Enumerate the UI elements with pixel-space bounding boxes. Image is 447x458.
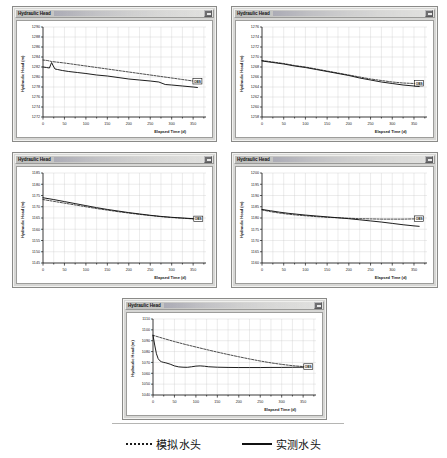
svg-text:1284: 1284 bbox=[32, 55, 40, 59]
hydraulic-head-window-4[interactable]: Hydraulic Head11601165117011751180118511… bbox=[231, 152, 438, 288]
svg-text:0: 0 bbox=[261, 122, 263, 126]
y-axis-ticks: 10401050106010701080109011001110 bbox=[142, 317, 153, 397]
figure-sheet: Hydraulic Head12721274127612781280128212… bbox=[0, 0, 447, 458]
chart-svg: 1145115011551160116511701175118011850501… bbox=[17, 167, 212, 283]
svg-text:1170: 1170 bbox=[251, 239, 259, 243]
window-title: Hydraulic Head bbox=[128, 303, 161, 308]
svg-text:1276: 1276 bbox=[32, 95, 40, 99]
svg-text:1155: 1155 bbox=[32, 239, 40, 243]
svg-text:1278: 1278 bbox=[32, 85, 40, 89]
svg-text:300: 300 bbox=[389, 122, 395, 126]
window-titlebar[interactable]: Hydraulic Head bbox=[15, 9, 214, 18]
svg-text:50: 50 bbox=[282, 122, 286, 126]
svg-text:1160: 1160 bbox=[32, 228, 40, 232]
svg-text:150: 150 bbox=[324, 122, 330, 126]
x-axis-label: Elapsed Time (d) bbox=[375, 129, 408, 134]
series-line-simulated bbox=[153, 335, 308, 366]
series-line-measured bbox=[43, 63, 197, 88]
svg-text:50: 50 bbox=[282, 268, 286, 272]
window-titlebar[interactable]: Hydraulic Head bbox=[234, 9, 435, 18]
svg-text:300: 300 bbox=[279, 400, 285, 404]
x-axis-ticks: 050100150200250300350 bbox=[261, 117, 425, 126]
plot-area: 1160116511701175118011851190119512000501… bbox=[235, 166, 434, 284]
svg-text:100: 100 bbox=[193, 400, 199, 404]
svg-text:0: 0 bbox=[42, 122, 44, 126]
window-titlebar[interactable]: Hydraulic Head bbox=[15, 155, 214, 164]
svg-text:350: 350 bbox=[300, 400, 306, 404]
svg-text:1090: 1090 bbox=[142, 339, 150, 343]
svg-text:1175: 1175 bbox=[251, 228, 259, 232]
svg-text:150: 150 bbox=[104, 122, 110, 126]
svg-text:100: 100 bbox=[83, 268, 89, 272]
hydraulic-head-window-3[interactable]: Hydraulic Head11451150115511601165117011… bbox=[12, 152, 217, 288]
window-titlebar[interactable]: Hydraulic Head bbox=[234, 155, 435, 164]
close-icon[interactable] bbox=[425, 156, 433, 163]
y-axis-label: Hydraulic Head (m) bbox=[130, 340, 135, 377]
svg-text:100: 100 bbox=[302, 122, 308, 126]
plot-area: 1272127412761278128012821284128612881290… bbox=[16, 20, 213, 138]
chart-svg: 1272127412761278128012821284128612881290… bbox=[17, 21, 212, 137]
svg-text:300: 300 bbox=[169, 122, 175, 126]
window-title: Hydraulic Head bbox=[18, 11, 51, 16]
legend-label-measured: 实测水头 bbox=[276, 436, 322, 452]
legend-label-simulated: 模拟水头 bbox=[156, 436, 202, 452]
svg-text:0: 0 bbox=[152, 400, 154, 404]
svg-text:1165: 1165 bbox=[251, 250, 259, 254]
svg-text:1180: 1180 bbox=[251, 216, 259, 220]
hydraulic-head-window-5[interactable]: Hydraulic Head10401050106010701080109011… bbox=[122, 298, 327, 420]
svg-text:1280: 1280 bbox=[32, 75, 40, 79]
window-title: Hydraulic Head bbox=[18, 157, 51, 162]
window-title: Hydraulic Head bbox=[237, 11, 270, 16]
svg-text:1040: 1040 bbox=[142, 393, 150, 397]
x-axis-label: Elapsed Time (d) bbox=[154, 129, 187, 134]
svg-text:1290: 1290 bbox=[32, 25, 40, 29]
svg-text:1070: 1070 bbox=[142, 361, 150, 365]
svg-text:1276: 1276 bbox=[251, 25, 259, 29]
close-icon[interactable] bbox=[204, 156, 212, 163]
chart-svg: 1160116511701175118011851190119512000501… bbox=[236, 167, 433, 283]
close-icon[interactable] bbox=[314, 302, 322, 309]
series-line-measured bbox=[262, 61, 419, 87]
series-line-measured bbox=[43, 198, 198, 219]
svg-text:1185: 1185 bbox=[32, 171, 40, 175]
hydraulic-head-window-1[interactable]: Hydraulic Head12721274127612781280128212… bbox=[12, 6, 217, 142]
end-label-text: OBS bbox=[195, 217, 202, 221]
svg-text:150: 150 bbox=[214, 400, 220, 404]
svg-text:1258: 1258 bbox=[251, 115, 259, 119]
svg-text:1185: 1185 bbox=[251, 205, 259, 209]
x-axis-ticks: 050100150200250300350 bbox=[261, 263, 425, 272]
end-label-text: OBS bbox=[194, 80, 201, 84]
svg-text:200: 200 bbox=[126, 268, 132, 272]
svg-text:0: 0 bbox=[42, 268, 44, 272]
svg-text:350: 350 bbox=[190, 122, 196, 126]
redacted-title-region bbox=[164, 303, 312, 308]
plot-area: 1258126012621264126612681270127212741276… bbox=[235, 20, 434, 138]
svg-text:1170: 1170 bbox=[32, 205, 40, 209]
svg-text:1175: 1175 bbox=[32, 194, 40, 198]
axes bbox=[262, 27, 427, 117]
end-label-text: OBS bbox=[305, 365, 312, 369]
close-icon[interactable] bbox=[425, 10, 433, 17]
svg-text:200: 200 bbox=[126, 122, 132, 126]
end-label-text: OBS bbox=[416, 82, 423, 86]
svg-text:200: 200 bbox=[346, 122, 352, 126]
svg-text:150: 150 bbox=[324, 268, 330, 272]
end-label-text: OBS bbox=[416, 217, 423, 221]
y-axis-label: Hydraulic Head (m) bbox=[239, 55, 244, 92]
series-line-simulated bbox=[43, 200, 198, 220]
axes bbox=[43, 27, 206, 117]
chart-svg: 1258126012621264126612681270127212741276… bbox=[236, 21, 433, 137]
grid bbox=[153, 319, 316, 395]
hydraulic-head-window-2[interactable]: Hydraulic Head12581260126212641266126812… bbox=[231, 6, 438, 142]
window-titlebar[interactable]: Hydraulic Head bbox=[125, 301, 324, 310]
svg-text:1110: 1110 bbox=[142, 317, 150, 321]
svg-text:1268: 1268 bbox=[251, 65, 259, 69]
svg-text:1195: 1195 bbox=[251, 183, 259, 187]
figure-legend: 模拟水头 实测水头 bbox=[0, 436, 447, 452]
svg-text:100: 100 bbox=[83, 122, 89, 126]
close-icon[interactable] bbox=[204, 10, 212, 17]
svg-text:1282: 1282 bbox=[32, 65, 40, 69]
redacted-title-region bbox=[273, 11, 423, 16]
svg-text:1050: 1050 bbox=[142, 382, 150, 386]
svg-text:1270: 1270 bbox=[251, 55, 259, 59]
